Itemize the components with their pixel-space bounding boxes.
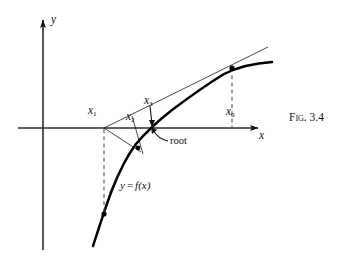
curve-point-x2 bbox=[136, 146, 141, 151]
y-axis-label: y bbox=[51, 14, 56, 26]
iterate-label-x1: x1 bbox=[88, 105, 97, 118]
iterate-label-x3: x3 bbox=[144, 95, 153, 108]
figure-caption-number: 3.4 bbox=[310, 111, 324, 123]
iterate-label-x2: x2 bbox=[126, 111, 135, 124]
secant-line-x1-x2 bbox=[104, 128, 141, 152]
root-label: root bbox=[170, 136, 187, 147]
function-label: y=f(x) bbox=[120, 180, 150, 191]
figure-caption-prefix: Fig. bbox=[289, 111, 307, 123]
curve-point-x1 bbox=[101, 211, 106, 216]
x-axis-label: x bbox=[259, 130, 264, 142]
curve-point-x0 bbox=[229, 65, 234, 70]
root-leader-line bbox=[153, 130, 168, 141]
figure-caption: Fig. 3.4 bbox=[289, 112, 324, 124]
figure-container: y x x1 x2 x3 x0 root y=f(x) Fig. 3.4 bbox=[0, 0, 347, 259]
iterate-label-x0: x0 bbox=[226, 106, 235, 119]
figure-drawing bbox=[0, 0, 347, 259]
function-label-leader bbox=[110, 177, 117, 193]
